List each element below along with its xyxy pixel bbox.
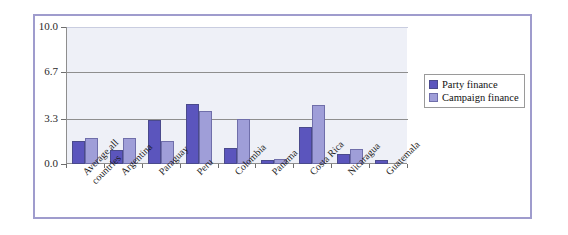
legend-label-party-finance: Party finance bbox=[442, 78, 498, 91]
legend-item-party-finance: Party finance bbox=[429, 78, 519, 91]
x-axis-category-label: Panama bbox=[270, 148, 299, 177]
x-axis-category-label: Colombia bbox=[233, 142, 268, 177]
x-axis-labels: Average allcountriesArgentinaParaguayPer… bbox=[0, 0, 568, 235]
legend-item-campaign-finance: Campaign finance bbox=[429, 91, 519, 104]
x-axis-category-label: Guatemala bbox=[384, 139, 422, 177]
x-axis-category-label: Costa Rica bbox=[308, 139, 346, 177]
chart-legend: Party finance Campaign finance bbox=[424, 74, 525, 108]
x-axis-category-label: Peru bbox=[195, 157, 215, 177]
x-axis-category-label: Argentina bbox=[119, 142, 154, 177]
legend-swatch-icon-party-finance bbox=[429, 80, 438, 89]
legend-label-campaign-finance: Campaign finance bbox=[442, 91, 519, 104]
x-axis-category-label: Paraguay bbox=[157, 144, 190, 177]
chart-screenshot: 0.03.36.710.0 Average allcountriesArgent… bbox=[0, 0, 568, 235]
legend-swatch-icon-campaign-finance bbox=[429, 93, 438, 102]
x-axis-category-label: Nicaragua bbox=[346, 141, 382, 177]
